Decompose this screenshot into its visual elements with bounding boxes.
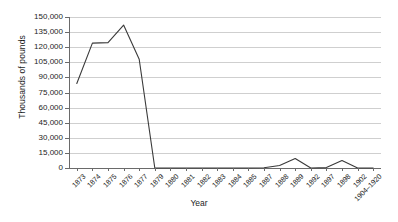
x-axis-tick-mark: [311, 168, 312, 171]
x-axis-tick-mark: [373, 168, 374, 171]
line-chart: Thousands of pounds 015,00030,00045,0006…: [0, 0, 398, 222]
y-axis-tick-label: 120,000: [19, 42, 63, 51]
y-axis-tick-label: 0: [19, 163, 63, 172]
y-axis-tick-label: 135,000: [19, 27, 63, 36]
x-axis-tick-mark: [295, 168, 296, 171]
x-axis-tick-label: 1887: [257, 172, 274, 189]
plot-area: [69, 17, 381, 168]
x-axis-tick-mark: [326, 168, 327, 171]
x-axis-tick-label: 1888: [273, 172, 290, 189]
x-axis-tick-mark: [186, 168, 187, 171]
x-axis-tick-label: 1885: [241, 172, 258, 189]
y-axis-tick-label: 45,000: [19, 118, 63, 127]
data-series-line: [69, 17, 381, 168]
x-axis-tick-mark: [77, 168, 78, 171]
y-axis-tick-label: 30,000: [19, 133, 63, 142]
x-axis-tick-label: 1875: [101, 172, 118, 189]
x-axis-tick-mark: [202, 168, 203, 171]
x-axis-tick-mark: [233, 168, 234, 171]
y-axis-tick-label: 90,000: [19, 72, 63, 81]
x-axis-tick-label: 1889: [288, 172, 305, 189]
x-axis-tick-label: 1874: [85, 172, 102, 189]
x-axis-tick-mark: [108, 168, 109, 171]
x-axis-tick-mark: [217, 168, 218, 171]
x-axis-tick-label: 1897: [319, 172, 336, 189]
y-axis-tick-label: 60,000: [19, 103, 63, 112]
x-axis-tick-label: 1877: [132, 172, 149, 189]
x-axis-tick-label: 1892: [304, 172, 321, 189]
x-axis-tick-mark: [342, 168, 343, 171]
x-axis-tick-label: 1884: [226, 172, 243, 189]
x-axis-tick-label: 1883: [210, 172, 227, 189]
x-axis-tick-label: 1882: [195, 172, 212, 189]
y-axis-tick-label: 15,000: [19, 148, 63, 157]
y-axis-tick-label: 150,000: [19, 12, 63, 21]
y-axis-tick-label: 75,000: [19, 88, 63, 97]
x-axis-tick-mark: [139, 168, 140, 171]
y-axis-tick-label: 105,000: [19, 57, 63, 66]
x-axis-title: Year: [0, 198, 398, 208]
x-axis-tick-mark: [358, 168, 359, 171]
x-axis-tick-mark: [248, 168, 249, 171]
x-axis-tick-mark: [264, 168, 265, 171]
x-axis-tick-label: 1880: [163, 172, 180, 189]
x-axis-tick-label: 1898: [335, 172, 352, 189]
x-axis-tick-label: 1881: [179, 172, 196, 189]
x-axis-tick-label: 1873: [70, 172, 87, 189]
x-axis-tick-label: 1879: [148, 172, 165, 189]
x-axis-tick-mark: [155, 168, 156, 171]
x-axis-tick-mark: [124, 168, 125, 171]
x-axis-tick-label: 1876: [117, 172, 134, 189]
x-axis-tick-mark: [92, 168, 93, 171]
x-axis-tick-mark: [280, 168, 281, 171]
x-axis-tick-mark: [170, 168, 171, 171]
